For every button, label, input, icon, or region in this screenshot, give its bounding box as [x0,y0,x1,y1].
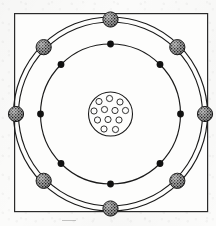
nucleon-particle [101,106,107,112]
outer-shell-electron [8,106,23,121]
nucleon-particle [94,117,100,123]
sphere-shading [36,173,51,188]
inner-shell-electron [58,61,65,68]
outer-shell-electron [36,40,51,55]
inner-shell-electron [58,160,65,167]
nucleon-particle [96,98,102,104]
nucleon-particle [91,108,97,114]
nucleus [89,92,133,136]
nucleon-particle [116,117,122,123]
inner-shell-electron [157,160,164,167]
outer-shell-electron [36,173,51,188]
atomic-model-figure [0,0,216,226]
inner-shell-electron [107,41,114,48]
nucleon-particle [105,116,111,122]
nucleon-particle [122,107,128,113]
outer-shell-electron [103,201,118,216]
inner-shell-electron [107,181,114,188]
sphere-shading [170,40,185,55]
outer-shell-electron [170,40,185,55]
sphere-shading [197,106,212,121]
sphere-shading [103,12,118,27]
nucleon-particle [112,107,118,113]
nucleon-particle [106,95,112,101]
inner-shell-electron [37,111,44,118]
nucleon-particle [117,99,123,105]
sphere-shading [170,173,185,188]
outer-shell-electron [170,173,185,188]
inner-shell-electron [177,111,184,118]
inner-shell-electron [157,61,164,68]
sphere-shading [36,40,51,55]
sphere-shading [8,106,23,121]
nucleon-particle [101,126,107,132]
nucleon-particle [112,126,118,132]
outer-shell-electron [103,12,118,27]
atom-diagram [0,0,216,226]
sphere-shading [103,201,118,216]
figure-caption [0,216,216,226]
outer-shell-electron [197,106,212,121]
